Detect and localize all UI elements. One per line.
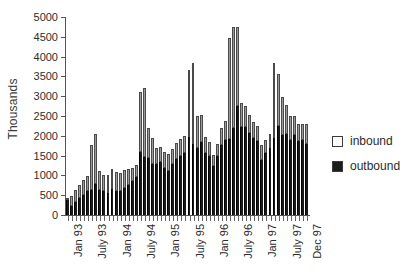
x-tick-mark	[173, 216, 174, 221]
x-tick-mark	[72, 216, 73, 221]
bar-segment-inbound	[196, 116, 199, 148]
bar-segment-inbound	[167, 154, 170, 170]
bar	[256, 17, 259, 215]
bar	[224, 17, 227, 215]
bar	[78, 17, 81, 215]
x-tick-mark	[141, 216, 142, 221]
bar-segment-inbound	[240, 103, 243, 126]
bar-segment-outbound	[90, 190, 93, 215]
bar-segment-outbound	[70, 206, 73, 215]
x-tick-mark	[181, 216, 182, 221]
bar-segment-outbound	[208, 156, 211, 215]
bar	[252, 17, 255, 215]
x-tick-mark	[250, 216, 251, 221]
bar	[220, 17, 223, 215]
bar	[151, 17, 154, 215]
bar-segment-inbound	[115, 172, 118, 191]
x-tick-mark	[283, 216, 284, 221]
bar	[94, 17, 97, 215]
x-tick-mark	[165, 216, 166, 221]
bar-segment-inbound	[147, 128, 150, 158]
bar-segment-inbound	[281, 97, 284, 134]
bar	[98, 17, 101, 215]
bar-segment-inbound	[285, 105, 288, 134]
bar	[74, 17, 77, 215]
legend-swatch-outbound	[332, 161, 343, 172]
x-tick-mark	[242, 216, 243, 221]
bar-segment-outbound	[285, 134, 288, 215]
bar-segment-outbound	[86, 191, 89, 215]
bar-segment-outbound	[252, 138, 255, 215]
bar-segment-outbound	[115, 191, 118, 215]
bar-segment-outbound	[175, 159, 178, 215]
x-tick-mark	[279, 216, 280, 221]
bar-segment-inbound	[78, 185, 81, 198]
bar-segment-inbound	[220, 128, 223, 145]
bar-segment-outbound	[183, 153, 186, 215]
bar-segment-outbound	[98, 190, 101, 215]
legend-swatch-inbound	[332, 136, 343, 147]
bar-segment-inbound	[204, 137, 207, 153]
bar-segment-inbound	[175, 143, 178, 159]
bar-segment-inbound	[119, 173, 122, 191]
bar	[163, 17, 166, 215]
bar	[244, 17, 247, 215]
bar-segment-outbound	[224, 140, 227, 215]
x-tick-mark	[194, 216, 195, 221]
bar-segment-inbound	[252, 122, 255, 139]
bar-segment-inbound	[107, 175, 110, 192]
y-tick-label: 2000	[34, 130, 58, 142]
x-tick-mark	[104, 216, 105, 221]
x-tick-label: Jan 94	[121, 224, 133, 257]
bar-segment-outbound	[196, 148, 199, 215]
bar-segment-inbound	[82, 180, 85, 195]
x-tick-mark	[129, 216, 130, 221]
x-tick-mark	[214, 216, 215, 221]
x-tick-mark	[230, 216, 231, 221]
x-tick-mark	[303, 216, 304, 221]
bar	[159, 17, 162, 215]
bar	[115, 17, 118, 215]
x-tick-mark	[133, 216, 134, 221]
bar	[107, 17, 110, 215]
bar-segment-inbound	[301, 124, 304, 139]
bar-segment-inbound	[192, 63, 195, 144]
bar-segment-inbound	[102, 175, 105, 192]
bar	[232, 17, 235, 215]
bar-segment-outbound	[256, 141, 259, 215]
bar-segment-outbound	[289, 140, 292, 215]
y-tick-label: 0	[52, 209, 58, 221]
x-tick-mark	[266, 216, 267, 221]
bar-segment-inbound	[159, 147, 162, 162]
x-tick-mark	[198, 216, 199, 221]
bar	[273, 17, 276, 215]
bar	[260, 17, 263, 215]
bar-segment-inbound	[256, 126, 259, 141]
bar-segment-inbound	[98, 171, 101, 190]
x-tick-mark	[295, 216, 296, 221]
bar-segment-outbound	[139, 152, 142, 215]
bar-segment-outbound	[244, 127, 247, 215]
bar	[86, 17, 89, 215]
bar-segment-outbound	[301, 140, 304, 215]
bar	[305, 17, 308, 215]
y-tick-label: 1500	[34, 150, 58, 162]
y-axis-title: Thousands	[6, 49, 20, 169]
x-tick-mark	[262, 216, 263, 221]
legend-label-outbound: outbound	[350, 159, 400, 173]
bar-segment-inbound	[111, 169, 114, 189]
bar-segment-outbound	[82, 195, 85, 215]
bar-segment-outbound	[232, 128, 235, 215]
legend-item-outbound: outbound	[332, 159, 400, 173]
bar-segment-inbound	[94, 134, 97, 184]
bar-segment-inbound	[208, 142, 211, 157]
x-tick-mark	[88, 216, 89, 221]
x-tick-mark	[258, 216, 259, 221]
bar	[179, 17, 182, 215]
bar-segment-outbound	[293, 135, 296, 215]
x-tick-mark	[202, 216, 203, 221]
bar-segment-inbound	[74, 190, 77, 201]
bar-segment-inbound	[143, 88, 146, 157]
bar-segment-inbound	[183, 136, 186, 153]
bar	[123, 17, 126, 215]
